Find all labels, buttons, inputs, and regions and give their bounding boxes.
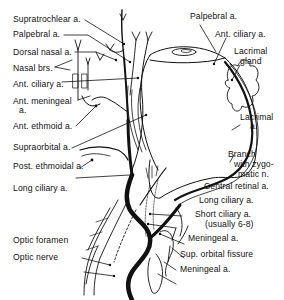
lacrimal-artery	[175, 62, 252, 200]
label-short-ciliary-artery-note: (usually 6-8)	[205, 220, 254, 229]
label-long-ciliary-artery-left: Long ciliary a.	[13, 184, 68, 193]
label-supratrochlear-artery: Supratrochlear a.	[13, 15, 81, 24]
label-branch-zygomatic-2: with zygo-	[234, 160, 274, 169]
ophthalmic-artery	[127, 175, 150, 300]
label-branch-zygomatic-3: matic n.	[238, 170, 269, 179]
label-ant-ciliary-artery-right: Ant. ciliary a.	[215, 30, 266, 39]
label-short-ciliary-artery: Short ciliary a.	[195, 210, 251, 219]
label-supraorbital-artery: Supraorbital a.	[13, 143, 70, 152]
label-lacrimal-gland: Lacrimal	[234, 47, 267, 56]
label-central-retinal-artery: Central retinal a.	[204, 182, 269, 191]
ophthalmic-artery-diagram: Supratrochlear a. Palpebral a. Dorsal na…	[0, 0, 284, 300]
label-optic-nerve: Optic nerve	[13, 253, 58, 262]
label-lacrimal-artery-suffix: a.	[250, 122, 257, 131]
label-dorsal-nasal-artery: Dorsal nasal a.	[13, 48, 72, 57]
label-post-ethmoidal-artery: Post. ethmoidal a.	[13, 162, 84, 171]
label-palpebral-artery-right: Palpebral a.	[190, 12, 237, 21]
label-branch-zygomatic-1: Branch	[228, 150, 256, 159]
label-ant-meningeal-artery-suffix: a.	[19, 106, 26, 115]
label-ant-ethmoid-artery: Ant. ethmoid a.	[13, 122, 72, 131]
label-palpebral-artery-left: Palpebral a.	[13, 30, 60, 39]
label-sup-orbital-fissure: Sup. orbital fissure	[180, 250, 253, 259]
label-long-ciliary-artery-right: Long ciliary a.	[199, 196, 254, 205]
label-meningeal-artery-1: Meningeal a.	[188, 234, 238, 243]
label-lacrimal-gland-suffix: gland	[240, 57, 262, 66]
label-optic-foramen: Optic foramen	[13, 236, 68, 245]
label-meningeal-artery-2: Meningeal a.	[180, 265, 230, 274]
label-ant-ciliary-artery-left: Ant. ciliary a.	[13, 80, 64, 89]
label-nasal-branches: Nasal brs.	[13, 64, 53, 73]
